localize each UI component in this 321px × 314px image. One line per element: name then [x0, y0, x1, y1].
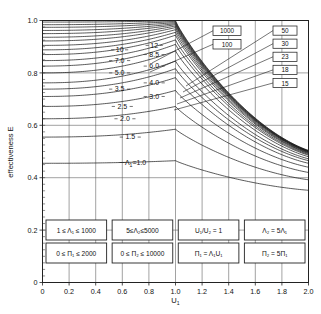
chart-figure: 00.20.40.60.81.01.21.41.61.82.0U11.00.80…	[0, 0, 321, 314]
curve-label-4.0: 4.0	[149, 79, 159, 86]
y-tick-label: 0	[34, 278, 38, 287]
curve-label-3.5: 3.5	[115, 85, 125, 92]
y-tick-label: 1.0	[28, 16, 38, 25]
curve-label-10: 10	[116, 46, 124, 53]
condition-text-lambda1-range: 1 ≤ Λ₁ ≤ 1000	[57, 227, 96, 234]
x-tick-label: 0.6	[117, 287, 127, 296]
y-tick-label: 0.4	[28, 173, 38, 182]
y-tick-label: 0.8	[28, 69, 38, 78]
x-tick-label: 1.0	[171, 287, 181, 296]
y-axis-title: effectiveness E	[6, 126, 15, 177]
x-tick-label: 0.8	[144, 287, 154, 296]
x-tick-label: 1.6	[250, 287, 260, 296]
condition-text-pi2-range: 0 ≤ Π₂ ≤ 10000	[120, 250, 164, 257]
x-tick-label: 1.4	[224, 287, 234, 296]
callout-18-label: 18	[281, 66, 289, 73]
y-axis-minor-ticks	[43, 21, 46, 283]
callout-50-label: 50	[281, 27, 289, 34]
effectiveness-chart-svg: 00.20.40.60.81.01.21.41.61.82.0U11.00.80…	[0, 0, 321, 314]
y-tick-label: 0.6	[28, 121, 38, 130]
condition-text-lambda2-range: 5≤Λ₂≤5000	[126, 227, 159, 234]
curve-label-12: 12	[150, 42, 158, 49]
curve-label-1.5: 1.5	[125, 133, 135, 140]
condition-text-lambda2-rel: Λ₂ = 5Λ₁	[262, 227, 288, 234]
callout-100-label: 100	[222, 41, 233, 48]
callout-30-label: 30	[281, 40, 289, 47]
curve-label-2.0: 2.0	[120, 115, 130, 122]
x-tick-label: 0	[41, 287, 45, 296]
curve-label-8.5: 8.5	[149, 51, 159, 58]
y-axis: 1.00.80.60.40.20	[28, 16, 43, 287]
curve-label-3.0: 3.0	[149, 93, 159, 100]
x-tick-label: 2.0	[304, 287, 314, 296]
x-tick-label: 1.2	[197, 287, 207, 296]
condition-text-pi2-rel: Π₂ = 5Π₁	[262, 250, 288, 257]
x-axis: 00.20.40.60.81.01.21.41.61.82.0	[41, 283, 314, 297]
condition-text-pi1-rel: Π₁ = Λ₁U₁	[195, 250, 224, 257]
callout-15-label: 15	[281, 80, 289, 87]
x-axis-title: U1	[171, 296, 179, 306]
condition-text-u-ratio: U₁/U₂ = 1	[195, 227, 223, 234]
curve-label-5.0: 5.0	[115, 69, 125, 76]
x-tick-label: 0.2	[64, 287, 74, 296]
x-tick-label: 0.4	[91, 287, 101, 296]
callout-1000-label: 1000	[220, 27, 235, 34]
curve-label-7.0: 7.0	[115, 57, 125, 64]
curve-label-2.5: 2.5	[117, 103, 127, 110]
condition-text-pi1-range: 0 ≤ Π₁ ≤ 2000	[56, 250, 96, 257]
y-tick-label: 0.2	[28, 226, 38, 235]
callout-23-label: 23	[281, 53, 289, 60]
x-tick-label: 1.8	[277, 287, 287, 296]
